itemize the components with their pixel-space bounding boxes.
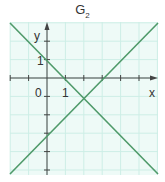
x-axis-label: x bbox=[149, 86, 155, 100]
x-tick-label-1: 1 bbox=[62, 86, 69, 100]
origin-label: 0 bbox=[35, 86, 42, 100]
y-axis-label: y bbox=[34, 29, 40, 43]
y-tick-label-1: 1 bbox=[37, 54, 44, 68]
coordinate-plot: x y 0 1 1 bbox=[0, 0, 165, 182]
